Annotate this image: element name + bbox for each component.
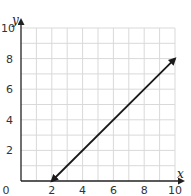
y-tick-label: 8 [6,53,13,66]
x-tick-label: 2 [48,184,55,196]
x-tick-label: 0 [3,184,10,196]
x-axis-label: x [177,167,184,181]
coordinate-plane-chart: 0246810246810 y x [0,0,191,196]
x-tick-label: 4 [79,184,86,196]
grid-lines [21,28,175,181]
y-axis-label: y [11,13,19,27]
y-tick-label: 2 [6,144,13,157]
x-tick-label: 6 [110,184,117,196]
y-tick-label: 4 [6,114,13,127]
axes [21,20,183,181]
y-tick-label: 6 [6,83,13,96]
x-tick-label: 10 [168,184,182,196]
x-tick-label: 8 [141,184,148,196]
cropped-heading-text [0,0,191,3]
tick-labels: 0246810246810 [1,22,182,196]
